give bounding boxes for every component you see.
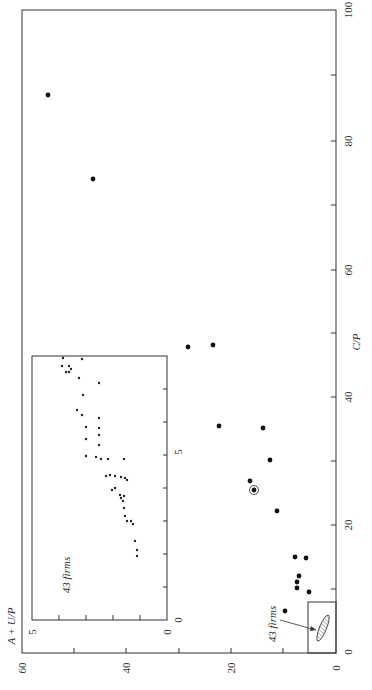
aup-tick-40: 40	[120, 662, 132, 674]
inset-data-point	[119, 494, 121, 496]
main-annotation: 43 firms	[266, 606, 278, 642]
inset-data-point	[98, 427, 100, 429]
aup-axis: 60 40 20 0 A + U/P	[5, 607, 342, 673]
inset-cp-tick-5: 5	[172, 449, 184, 455]
inset-data-point	[62, 357, 64, 359]
inset-cp-tick-0: 0	[172, 617, 184, 623]
inset-data-point	[123, 495, 125, 497]
cp-tick-60: 60	[342, 264, 354, 276]
inset-scatter-points	[61, 357, 138, 557]
inset-data-point	[85, 426, 87, 428]
data-point	[295, 580, 300, 585]
aup-axis-title: A + U/P	[5, 607, 17, 645]
cp-tick-0: 0	[342, 649, 354, 655]
inset-data-point	[130, 520, 132, 522]
inset-data-point	[85, 455, 87, 457]
cp-axis-title: C/P	[350, 333, 362, 350]
inset-data-point	[122, 500, 124, 502]
inset-data-point	[114, 487, 116, 489]
inset-data-point	[114, 475, 116, 477]
aup-tick-20: 20	[225, 662, 237, 674]
cluster-hatched-ellipse	[315, 614, 332, 643]
data-point	[46, 93, 51, 98]
inset-data-point	[98, 382, 100, 384]
data-point	[275, 509, 280, 514]
inset-data-point	[61, 365, 63, 367]
inset-data-point	[134, 540, 136, 542]
cp-tick-40: 40	[342, 391, 354, 403]
inset-data-point	[109, 474, 111, 476]
data-point	[307, 590, 312, 595]
inset-data-point	[98, 417, 100, 419]
inset-axis: 5 0 5 0 43 firms	[26, 389, 184, 635]
main-scatter-points	[46, 93, 312, 614]
inset-data-point	[68, 365, 70, 367]
aup-tick-0: 0	[330, 665, 342, 671]
inset-data-point	[123, 507, 125, 509]
inset-aup-tick-5: 5	[26, 629, 38, 635]
data-point	[304, 556, 309, 561]
inset-aup-tick-0: 0	[161, 629, 173, 635]
inset-data-point	[126, 479, 128, 481]
aup-tick-60: 60	[16, 662, 28, 674]
main-plot-frame	[22, 10, 336, 653]
inset-data-point	[78, 377, 80, 379]
inset-data-point	[124, 477, 126, 479]
inset-data-point	[111, 489, 113, 491]
inset-data-point	[100, 458, 102, 460]
inset-data-point	[95, 456, 97, 458]
cp-tick-100: 100	[342, 1, 354, 18]
inset-annotation: 43 firms	[60, 557, 72, 593]
arrowhead-icon	[310, 626, 316, 631]
inset-data-point	[107, 458, 109, 460]
inset-data-point	[81, 414, 83, 416]
data-point	[268, 458, 273, 463]
scatter-chart: 100 80 60 40 20 0 C/P 60 40 20 0 A + U/P…	[0, 0, 372, 690]
data-point	[91, 177, 96, 182]
data-point	[295, 586, 300, 591]
inset-data-point	[105, 475, 107, 477]
inset-data-point	[120, 497, 122, 499]
inset-data-point	[126, 520, 128, 522]
inset-data-point	[65, 371, 67, 373]
inset-data-point	[120, 476, 122, 478]
inset-data-point	[124, 515, 126, 517]
circled-point	[250, 486, 259, 495]
inset-data-point	[85, 438, 87, 440]
data-point	[293, 555, 298, 560]
inset-data-point	[81, 358, 83, 360]
inset-data-point	[136, 549, 138, 551]
inset-frame	[32, 356, 167, 620]
inset-data-point	[82, 394, 84, 396]
inset-data-point	[68, 371, 70, 373]
data-point	[283, 609, 288, 614]
inset-data-point	[132, 523, 134, 525]
cp-tick-20: 20	[342, 519, 354, 531]
data-point	[297, 574, 302, 579]
data-point	[261, 426, 266, 431]
data-point	[248, 479, 253, 484]
cp-tick-80: 80	[342, 135, 354, 147]
data-point	[217, 424, 222, 429]
data-point	[211, 343, 216, 348]
inset-data-point	[98, 444, 100, 446]
inset-data-point	[136, 555, 138, 557]
data-point	[186, 345, 191, 350]
inset-data-point	[76, 409, 78, 411]
inset-data-point	[98, 434, 100, 436]
inset-data-point	[123, 458, 125, 460]
inset-data-point	[70, 368, 72, 370]
